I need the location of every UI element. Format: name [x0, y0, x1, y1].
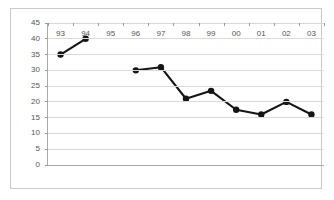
- y-axis-tick-mark: [45, 149, 48, 150]
- x-axis-tick-label: 99: [199, 30, 224, 38]
- y-axis-tick-mark: [45, 38, 48, 39]
- x-axis-tick-label: 96: [123, 30, 148, 38]
- x-axis-tick-label: 98: [173, 30, 198, 38]
- x-axis-tick-label: 03: [299, 30, 324, 38]
- y-axis-tick-label: 45: [18, 19, 40, 27]
- gridline: [48, 101, 324, 102]
- x-axis-tick-mark: [324, 23, 325, 26]
- y-axis-tick-label: 30: [18, 66, 40, 74]
- y-axis-tick-mark: [45, 165, 48, 166]
- gridline: [48, 86, 324, 87]
- x-axis-tick-mark: [249, 23, 250, 26]
- y-axis-tick-label: 40: [18, 35, 40, 43]
- y-axis-tick-mark: [45, 117, 48, 118]
- x-axis-tick-label: 02: [274, 30, 299, 38]
- gridline: [48, 70, 324, 71]
- x-axis-tick-mark: [98, 23, 99, 26]
- data-point-marker: [233, 107, 239, 113]
- x-axis-tick-mark: [199, 23, 200, 26]
- y-axis-tick-label: 5: [18, 145, 40, 153]
- gridline: [48, 38, 324, 39]
- x-axis-tick-mark: [299, 23, 300, 26]
- x-axis-tick-label: 95: [98, 30, 123, 38]
- x-axis-tick-label: 97: [148, 30, 173, 38]
- gridline: [48, 117, 324, 118]
- y-axis-tick-label: 25: [18, 82, 40, 90]
- x-axis-tick-mark: [148, 23, 149, 26]
- y-axis-tick-label: 35: [18, 51, 40, 59]
- x-axis-tick-label: 93: [48, 30, 73, 38]
- y-axis-tick-mark: [45, 101, 48, 102]
- y-axis-tick-label: 15: [18, 114, 40, 122]
- y-axis-tick-label: 20: [18, 98, 40, 106]
- x-axis-tick-mark: [173, 23, 174, 26]
- gridline: [48, 133, 324, 134]
- gridline: [48, 23, 324, 24]
- y-axis-tick-label: 0: [18, 161, 40, 169]
- chart-root: 4540353025201510509394959697989900010203: [0, 0, 334, 200]
- x-axis-tick-mark: [224, 23, 225, 26]
- x-axis-tick-mark: [123, 23, 124, 26]
- chart-frame: 4540353025201510509394959697989900010203: [10, 8, 322, 189]
- gridline: [48, 54, 324, 55]
- x-axis-tick-mark: [48, 23, 49, 26]
- gridline: [48, 149, 324, 150]
- plot-area: 4540353025201510509394959697989900010203: [47, 23, 324, 166]
- x-axis-tick-mark: [274, 23, 275, 26]
- series-line-segment: [61, 39, 86, 55]
- series-line-segment: [136, 67, 312, 114]
- y-axis-tick-mark: [45, 70, 48, 71]
- y-axis-tick-mark: [45, 86, 48, 87]
- data-point-marker: [208, 88, 214, 94]
- y-axis-tick-mark: [45, 133, 48, 134]
- y-axis-tick-mark: [45, 54, 48, 55]
- series-line-chart: [48, 23, 324, 165]
- x-axis-tick-label: 00: [224, 30, 249, 38]
- x-axis-tick-mark: [73, 23, 74, 26]
- y-axis-tick-label: 10: [18, 129, 40, 137]
- x-axis-tick-label: 94: [73, 30, 98, 38]
- x-axis-tick-label: 01: [249, 30, 274, 38]
